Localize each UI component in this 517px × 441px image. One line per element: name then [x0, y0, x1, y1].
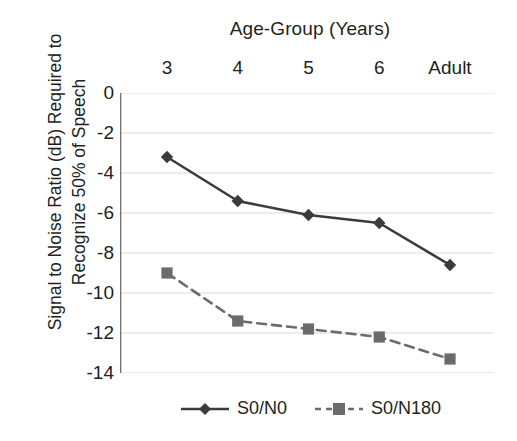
marker-s0-n180-6 — [374, 331, 385, 342]
value-tick-label-neg2: -2 — [97, 122, 114, 144]
value-tick-label-neg14: -14 — [87, 362, 114, 384]
marker-s0-n180-adult — [444, 353, 455, 364]
legend-entry-s0n180: S0/N180 — [313, 398, 441, 419]
plot-area — [120, 93, 494, 373]
legend-label-s0n180: S0/N180 — [371, 398, 441, 419]
marker-s0-n180-4 — [232, 315, 243, 326]
value-tick-label-0: 0 — [103, 82, 114, 104]
marker-s0-n180-5 — [303, 323, 314, 334]
value-axis-labels: 0-2-4-6-8-10-12-14 — [62, 0, 114, 441]
category-tick-label-4: 4 — [232, 57, 243, 79]
category-tick-label-3: 3 — [162, 57, 173, 79]
value-tick-label-neg8: -8 — [97, 242, 114, 264]
legend-label-s0n0: S0/N0 — [237, 398, 287, 419]
category-tick-label-adult: Adult — [428, 57, 471, 79]
category-tick-label-5: 5 — [303, 57, 314, 79]
value-tick-label-neg12: -12 — [87, 322, 114, 344]
series-line-s0-n180 — [167, 273, 450, 359]
legend-entry-s0n0: S0/N0 — [179, 398, 287, 419]
chart-figure: Age-Group (Years) Signal to Noise Ratio … — [0, 0, 517, 441]
legend-dashed-square-icon — [313, 401, 365, 417]
marker-s0-n0-5 — [302, 209, 314, 221]
category-tick-label-6: 6 — [374, 57, 385, 79]
marker-s0-n0-3 — [161, 151, 173, 163]
marker-s0-n180-3 — [161, 267, 172, 278]
marker-s0-n0-4 — [232, 195, 244, 207]
value-tick-label-neg6: -6 — [97, 202, 114, 224]
marker-s0-n0-6 — [373, 217, 385, 229]
x-axis-title: Age-Group (Years) — [110, 18, 510, 40]
value-tick-label-neg10: -10 — [87, 282, 114, 304]
plot-svg — [120, 93, 494, 373]
marker-s0-n0-adult — [444, 259, 456, 271]
chart-legend: S0/N0 S0/N180 — [110, 398, 510, 419]
value-tick-label-neg4: -4 — [97, 162, 114, 184]
legend-solid-diamond-icon — [179, 401, 231, 417]
